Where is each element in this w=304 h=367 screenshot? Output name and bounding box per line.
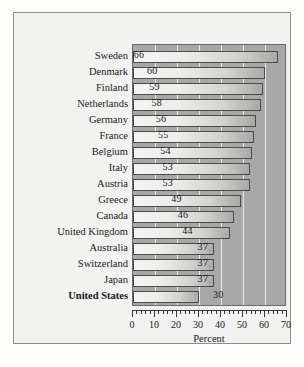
- tick-label: 50: [237, 319, 247, 330]
- bar-value-label: 46: [178, 209, 279, 221]
- bar-row: 30: [133, 289, 287, 305]
- major-tick: [176, 310, 177, 317]
- minor-tick: [216, 310, 217, 314]
- tick-label: 10: [149, 319, 159, 330]
- minor-tick: [180, 310, 181, 314]
- bar-value-label: 49: [171, 193, 279, 205]
- bar-value-label: 56: [156, 113, 279, 125]
- x-axis-tick-labels: 010203040506070: [132, 319, 286, 332]
- category-label: Sweden: [95, 48, 128, 64]
- major-tick: [264, 310, 265, 317]
- minor-tick: [277, 310, 278, 314]
- gridline-70: [287, 45, 288, 305]
- minor-tick: [238, 310, 239, 314]
- chart-page: SwedenDenmarkFinlandNetherlandsGermanyFr…: [0, 0, 304, 367]
- category-label: Belgium: [92, 144, 128, 160]
- bar-row: 66: [133, 49, 287, 65]
- category-label: United States: [68, 288, 128, 304]
- tick-label: 20: [171, 319, 181, 330]
- x-axis: [132, 310, 286, 318]
- bar-row: 44: [133, 225, 287, 241]
- bar-row: 55: [133, 129, 287, 145]
- bar-value-label: 30: [213, 289, 279, 301]
- bar-value-label: 54: [160, 145, 279, 157]
- bar-row: 59: [133, 81, 287, 97]
- x-axis-line: [132, 310, 286, 311]
- bar-value-label: 66: [134, 49, 279, 61]
- bar-value-label: 60: [147, 65, 279, 77]
- tick-label: 70: [281, 319, 291, 330]
- category-label: Canada: [97, 208, 129, 224]
- minor-tick: [163, 310, 164, 314]
- minor-tick: [251, 310, 252, 314]
- category-label: Italy: [109, 160, 128, 176]
- minor-tick: [268, 310, 269, 314]
- bar-value-label: 37: [198, 241, 279, 253]
- category-label: France: [99, 128, 128, 144]
- minor-tick: [185, 310, 186, 314]
- bar-row: 37: [133, 257, 287, 273]
- category-label: Japan: [104, 272, 128, 288]
- minor-tick: [246, 310, 247, 314]
- category-label: Denmark: [89, 64, 128, 80]
- bar-value-label: 37: [198, 273, 279, 285]
- minor-tick: [145, 310, 146, 314]
- category-label: Switzerland: [78, 256, 128, 272]
- category-label: Netherlands: [77, 96, 128, 112]
- minor-tick: [141, 310, 142, 314]
- bar-value-label: 37: [198, 257, 279, 269]
- bar-row: 60: [133, 65, 287, 81]
- minor-tick: [282, 310, 283, 314]
- bar-row: 49: [133, 193, 287, 209]
- minor-tick: [260, 310, 261, 314]
- bar-row: 37: [133, 273, 287, 289]
- bar-value-label: 59: [149, 81, 279, 93]
- category-label: Germany: [89, 112, 128, 128]
- bar-value-label: 53: [162, 177, 279, 189]
- bar-row: 37: [133, 241, 287, 257]
- minor-tick: [202, 310, 203, 314]
- bar-row: 53: [133, 161, 287, 177]
- bar-value-label: 53: [162, 161, 279, 173]
- plot-area: 66605958565554535349464437373730: [132, 44, 286, 306]
- bar-row: 54: [133, 145, 287, 161]
- minor-tick: [158, 310, 159, 314]
- major-tick: [286, 310, 287, 317]
- category-label: Austria: [97, 176, 128, 192]
- bar-row: 46: [133, 209, 287, 225]
- bar-value-label: 55: [158, 129, 279, 141]
- major-tick: [220, 310, 221, 317]
- figure-frame: SwedenDenmarkFinlandNetherlandsGermanyFr…: [13, 12, 291, 344]
- major-tick: [154, 310, 155, 317]
- minor-tick: [172, 310, 173, 314]
- category-label: United Kingdom: [57, 224, 128, 240]
- minor-tick: [167, 310, 168, 314]
- tick-label: 60: [259, 319, 269, 330]
- major-tick: [242, 310, 243, 317]
- x-axis-title: Percent: [132, 333, 286, 344]
- minor-tick: [194, 310, 195, 314]
- tick-label: 40: [215, 319, 225, 330]
- category-axis-labels: SwedenDenmarkFinlandNetherlandsGermanyFr…: [28, 44, 128, 306]
- bar-value-label: 44: [182, 225, 279, 237]
- bar-row: 56: [133, 113, 287, 129]
- minor-tick: [207, 310, 208, 314]
- bar-row: 53: [133, 177, 287, 193]
- category-label: Australia: [90, 240, 129, 256]
- major-tick: [132, 310, 133, 317]
- tick-label: 30: [193, 319, 203, 330]
- minor-tick: [233, 310, 234, 314]
- minor-tick: [150, 310, 151, 314]
- bar-value-label: 58: [151, 97, 279, 109]
- category-label: Greece: [98, 192, 128, 208]
- minor-tick: [273, 310, 274, 314]
- bar-series: 66605958565554535349464437373730: [133, 45, 285, 305]
- major-tick: [198, 310, 199, 317]
- bar: [133, 291, 199, 303]
- minor-tick: [255, 310, 256, 314]
- minor-tick: [229, 310, 230, 314]
- tick-label: 0: [130, 319, 135, 330]
- minor-tick: [136, 310, 137, 314]
- bar-row: 58: [133, 97, 287, 113]
- minor-tick: [189, 310, 190, 314]
